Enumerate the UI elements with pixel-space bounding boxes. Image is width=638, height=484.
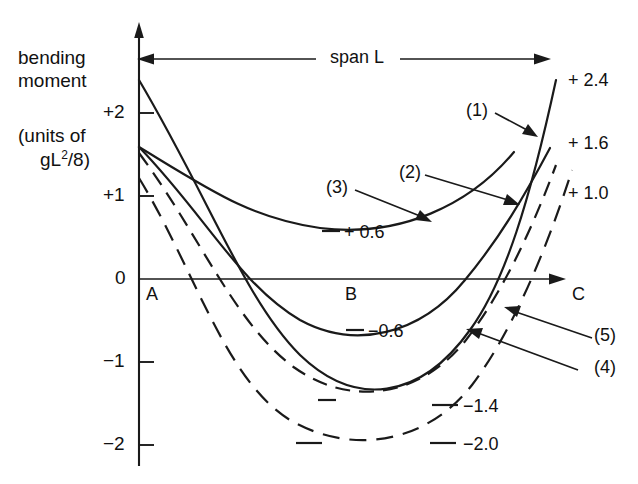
span-right-arrowhead xyxy=(534,54,551,65)
y-axis-units-label: (units of xyxy=(18,125,86,146)
node-label-a: A xyxy=(146,284,158,304)
chart-plot-area xyxy=(0,0,638,484)
y-tick-label-zero: 0 xyxy=(115,267,126,288)
curve-5-path xyxy=(139,170,572,440)
y-axis-arrowhead xyxy=(134,22,144,38)
leader-3-line xyxy=(355,190,420,216)
leader-1-line xyxy=(495,113,527,130)
value-label-minus-1-4: −1.4 xyxy=(463,396,499,416)
value-label-plus-0-6: + 0.6 xyxy=(344,222,385,242)
value-label-plus-2-4: + 2.4 xyxy=(568,70,609,90)
series-tag-1: (1) xyxy=(466,100,488,120)
y-tick-label-minus2: −2 xyxy=(103,433,125,454)
node-label-b: B xyxy=(345,284,357,304)
series-tag-5: (5) xyxy=(594,325,616,345)
value-label-minus-2-0: −2.0 xyxy=(463,434,499,454)
y-axis-title-line-2: moment xyxy=(18,70,87,91)
y-axis-units-divisor: /8) xyxy=(68,149,90,170)
value-label-plus-1-6: + 1.6 xyxy=(568,133,609,153)
y-axis-units-text-a: (units of xyxy=(18,125,86,146)
y-tick-label-plus2: +2 xyxy=(103,101,125,122)
bending-moment-chart: bending moment (units of gL2/8) +2 +1 0 … xyxy=(0,0,638,484)
x-axis-arrowhead xyxy=(549,274,566,285)
leader-1-arrowhead xyxy=(522,124,538,137)
y-axis-title-line-1: bending xyxy=(18,47,86,68)
leader-3-arrowhead xyxy=(415,210,432,222)
y-axis-units-expression: gL2/8) xyxy=(40,149,90,171)
value-label-minus-0-6: −0.6 xyxy=(368,321,404,341)
series-tag-4: (4) xyxy=(594,357,616,377)
span-length-label: span L xyxy=(330,47,384,67)
leader-5-line xyxy=(516,312,592,338)
leader-5-arrowhead xyxy=(504,306,521,317)
y-tick-label-minus1: −1 xyxy=(103,350,125,371)
series-tag-3: (3) xyxy=(326,177,348,197)
node-label-c: C xyxy=(572,284,585,304)
series-tag-2: (2) xyxy=(399,162,421,182)
leader-2-line xyxy=(425,175,508,200)
value-label-plus-1-0: + 1.0 xyxy=(568,183,609,203)
leader-4-line xyxy=(478,333,578,370)
y-axis-units-exponent: 2 xyxy=(61,148,68,162)
leader-2-arrowhead xyxy=(503,194,520,205)
y-axis-units-base: gL xyxy=(40,149,61,170)
y-tick-label-plus1: +1 xyxy=(103,184,125,205)
